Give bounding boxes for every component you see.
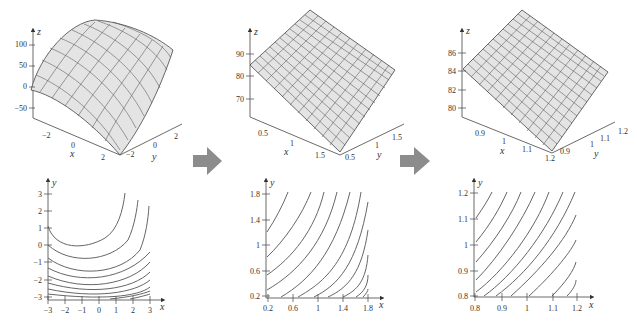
surface-plot-2: 90 80 70 z 0.5 1 1.5 0.5 1 1.5 x y (236, 10, 404, 162)
x-tick: 1.2 (572, 304, 582, 313)
y-axis-label: y (51, 177, 57, 188)
x-tick: −2 (61, 306, 70, 315)
z-axis-label: z (465, 25, 470, 36)
y-tick: 0.5 (345, 153, 355, 162)
x-axis-label: x (283, 146, 289, 157)
z-tick: 82 (448, 86, 456, 95)
x-tick: 3 (148, 306, 152, 315)
x-tick: 1.8 (363, 304, 373, 313)
x-axis-label: x (69, 148, 75, 159)
y-tick: 0.6 (250, 267, 260, 276)
x-tick: 1 (290, 139, 294, 148)
y-tick: 0 (38, 241, 42, 250)
z-tick: 50 (19, 61, 27, 70)
x-axis-label: x (499, 145, 505, 156)
x-tick: 0.9 (475, 129, 485, 138)
surface-plot-3: 86 84 82 80 z 0.9 1 1.1 1.2 0.9 1 1.1 1.… (448, 10, 628, 163)
y-tick: 1 (38, 224, 42, 233)
x-axis-label: x (378, 299, 384, 310)
z-tick: −50 (14, 104, 27, 113)
x-tick: −3 (44, 306, 53, 315)
y-axis-label: y (151, 151, 157, 162)
x-tick: 1 (525, 304, 529, 313)
x-tick: 1.1 (522, 145, 532, 154)
y-tick: −2 (126, 150, 135, 159)
y-tick: 1.2 (618, 127, 628, 136)
y-tick: 1.1 (600, 134, 610, 143)
x-tick: 1.1 (548, 304, 558, 313)
z-tick: 90 (236, 50, 244, 59)
y-tick: 1 (256, 241, 260, 250)
contour-plot-2: 1.8 1.4 1 0.6 0.2 0.2 0.6 1 1.4 1.8 y x (250, 177, 384, 313)
x-tick: 1 (316, 304, 320, 313)
zoom-arrow-1 (193, 147, 222, 175)
x-tick: 1.4 (338, 304, 348, 313)
z-tick: 80 (448, 104, 456, 113)
z-tick: 80 (236, 72, 244, 81)
x-tick: 0.5 (258, 129, 268, 138)
z-tick: 70 (236, 95, 244, 104)
z-tick: 100 (15, 40, 27, 49)
x-tick: 2 (131, 306, 135, 315)
z-tick: 84 (448, 67, 456, 76)
x-tick: 1.2 (545, 154, 555, 163)
y-tick: 0.9 (560, 147, 570, 156)
y-tick: 3 (38, 190, 42, 199)
z-tick: 86 (448, 49, 456, 58)
contour-plot-3: 1.2 1.1 1 0.9 0.8 0.8 0.9 1 1.1 1.2 y x (458, 177, 594, 313)
y-axis-label: y (269, 177, 275, 188)
surface-plot-1: 100 50 0 −50 z −2 0 2 −2 0 2 x y (14, 20, 182, 162)
x-tick: −2 (42, 131, 51, 140)
x-tick: 1.5 (315, 151, 325, 160)
y-tick: −3 (33, 293, 42, 302)
z-tick: 0 (23, 82, 27, 91)
y-axis-label: y (477, 177, 483, 188)
x-axis-label: x (159, 301, 165, 312)
y-tick: −1 (33, 258, 42, 267)
y-tick: 0.8 (458, 292, 468, 301)
x-tick: −1 (78, 306, 87, 315)
x-tick: 2 (101, 153, 105, 162)
y-tick: 0.9 (458, 267, 468, 276)
y-tick: 2 (174, 132, 178, 141)
x-axis-label: x (588, 299, 594, 310)
contour-plot-1: 3 2 1 0 −1 −2 −3 −3 −2 −1 0 1 2 3 y x (33, 177, 165, 315)
y-tick: 1.8 (250, 190, 260, 199)
y-tick: 0 (153, 141, 157, 150)
y-tick: 0.2 (250, 292, 260, 301)
y-tick: −2 (33, 276, 42, 285)
x-tick: 1 (114, 306, 118, 315)
y-tick: 1.4 (250, 216, 260, 225)
x-tick: 0.2 (263, 304, 273, 313)
x-tick: 0.6 (288, 304, 298, 313)
y-tick: 1 (464, 241, 468, 250)
figure: 100 50 0 −50 z −2 0 2 −2 0 2 x y (0, 0, 637, 325)
y-axis-label: y (376, 149, 382, 160)
x-tick: 0.8 (470, 304, 480, 313)
y-tick: 1.1 (458, 215, 468, 224)
y-tick: 1.2 (458, 189, 468, 198)
y-tick: 2 (38, 207, 42, 216)
z-axis-label: z (36, 26, 41, 37)
y-axis-label: y (593, 148, 599, 159)
zoom-arrow-2 (400, 147, 430, 175)
x-tick: 0.9 (497, 304, 507, 313)
z-axis-label: z (253, 26, 258, 37)
y-tick: 1.5 (392, 133, 402, 142)
x-tick: 0 (97, 306, 101, 315)
